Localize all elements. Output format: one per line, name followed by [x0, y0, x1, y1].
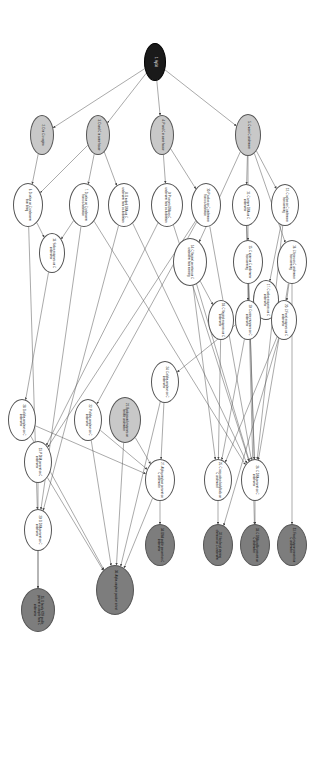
graph-node-6[interactable]: 6. D saliva on C underwear from biting — [13, 183, 43, 227]
graph-node-label: 23. P DNA present on C underwear — [35, 444, 41, 480]
graph-node-label: 14. C Vaginal secretion on C underwear f… — [187, 241, 193, 283]
graph-node-9[interactable]: 9. P semen DNA on C underwear from co-ha… — [151, 183, 183, 227]
graph-node-label: 28. D alpha-amylase on C underwear — [19, 402, 25, 438]
graph-edge — [108, 73, 147, 122]
graph-node-8[interactable]: 8. D naked DNA on C underwear from co-ha… — [108, 183, 140, 227]
graph-edge — [135, 438, 150, 464]
graph-node-label: 8. D naked DNA on C underwear from co-ha… — [121, 186, 127, 224]
graph-node-34[interactable]: 34. DNA profile present on C underwear — [145, 524, 175, 566]
graph-edge — [200, 281, 213, 304]
graph-node-label: 6. D saliva on C underwear from biting — [25, 186, 31, 224]
graph-edge — [104, 152, 116, 185]
graph-node-5[interactable]: 5. C worn C underwear — [235, 114, 261, 156]
graph-node-35[interactable]: 35. D family STR profile present in samp… — [21, 588, 55, 632]
graph-node-label: 5. C worn C underwear — [246, 117, 249, 153]
graph-node-label: 20. C Fecal enzymes on C underwear — [281, 303, 287, 337]
graph-node-12[interactable]: 12. C saliva on C underwear from wearing — [271, 184, 299, 226]
graph-edge — [256, 151, 276, 189]
graph-edge — [47, 478, 103, 571]
graph-node-3[interactable]: 3. D and C in same house — [86, 115, 110, 155]
graph-node-25[interactable]: 25. C non-saliva bodyfluids on C underwe… — [204, 459, 232, 501]
graph-node-label: 1. Hg/3d — [153, 46, 156, 78]
diagram-stage: 1. Hg/3d2. D in C's vagina3. D and C in … — [0, 0, 310, 784]
graph-node-label: 33. C DNA profile present on C underwear — [252, 527, 258, 563]
graph-edge — [32, 154, 38, 184]
graph-node-7[interactable]: 7. D saliva on C underwear from co-habit… — [69, 183, 99, 227]
graph-node-label: 32. Non-fecal staining chemical on C und… — [215, 527, 221, 563]
graph-node-label: 30. Alpha-amylase positive in test — [113, 568, 116, 612]
graph-node-label: 3. D and C in same house — [96, 118, 99, 152]
graph-node-label: 19. C urine enzymes on C underwear — [245, 303, 251, 337]
graph-node-label: 16. C feces on C underwear from wearing — [289, 243, 295, 281]
graph-node-label: 12. C saliva on C underwear from wearing — [282, 187, 288, 223]
graph-edge — [163, 155, 165, 183]
graph-node-32[interactable]: 32. Non-fecal staining chemical on C und… — [203, 524, 233, 566]
graph-edge — [26, 272, 49, 399]
graph-node-label: 4. P and C in same house — [160, 118, 163, 152]
graph-node-14[interactable]: 14. C Vaginal secretion on C underwear f… — [173, 238, 207, 286]
graph-node-29[interactable]: 29. D DNA present on C underwear — [24, 509, 52, 551]
graph-node-18[interactable]: 18. C Vaginal enzymes on C underwear — [208, 300, 234, 340]
graph-node-label: 13. Saliva enzymes on C underwear — [49, 236, 55, 270]
graph-node-label: 15. C urine on C underwear from wearing — [245, 243, 251, 281]
graph-edge — [61, 221, 73, 239]
graph-node-31[interactable]: 31. Fecal enzyme present on C underwear — [277, 524, 307, 566]
graph-node-label: 35. D family STR profile present in samp… — [33, 591, 43, 629]
graph-node-23[interactable]: 23. P DNA present on C underwear — [24, 441, 52, 483]
graph-node-label: 10. P saliva on C underwear from co-habi… — [203, 186, 209, 224]
graph-edge — [171, 149, 196, 189]
graph-node-label: 26. C DNA present on C underwear — [252, 462, 258, 498]
graph-node-2[interactable]: 2. D in C's vagina — [30, 115, 54, 155]
graph-node-label: 9. P semen DNA on C underwear from co-ha… — [164, 186, 170, 224]
graph-node-28[interactable]: 28. D alpha-amylase on C underwear — [8, 399, 36, 441]
graph-node-10[interactable]: 10. P saliva on C underwear from co-habi… — [191, 183, 221, 227]
graph-node-15[interactable]: 15. C urine on C underwear from wearing — [233, 240, 263, 284]
graph-node-19[interactable]: 19. C urine enzymes on C underwear — [235, 300, 261, 340]
graph-node-label: 18. C Vaginal enzymes on C underwear — [218, 303, 224, 337]
graph-node-label: 34. DNA profile present on C underwear — [157, 527, 163, 563]
graph-node-label: 11. C semen DNA on C underwear — [243, 187, 249, 223]
graph-node-label: 22. P alpha-amylase on C underwear — [85, 402, 91, 438]
graph-node-13[interactable]: 13. Saliva enzymes on C underwear — [39, 233, 65, 273]
graph-node-30[interactable]: 30. Alpha-amylase positive in test — [96, 565, 134, 615]
graph-edge — [116, 443, 123, 565]
graph-node-27[interactable]: 27. Alpha-amylase present on C underwear — [145, 459, 175, 501]
graph-node-label: 21. Background enzymes on female underwe… — [122, 400, 128, 440]
graph-node-26[interactable]: 26. C DNA present on C underwear — [241, 459, 269, 501]
graph-node-16[interactable]: 16. C feces on C underwear from wearing — [277, 240, 307, 284]
graph-node-label: 25. C non-saliva bodyfluids on C underwe… — [215, 462, 221, 498]
graph-edge — [91, 440, 111, 565]
graph-node-11[interactable]: 11. C semen DNA on C underwear — [232, 184, 260, 226]
graph-edge — [157, 81, 160, 116]
diagram-canvas: 1. Hg/3d2. D in C's vagina3. D and C in … — [0, 0, 310, 784]
graph-edge — [161, 403, 164, 459]
graph-node-22[interactable]: 22. P alpha-amylase on C underwear — [74, 399, 102, 441]
graph-node-label: 27. Alpha-amylase present on C underwear — [157, 462, 163, 498]
graph-node-label: 29. D DNA present on C underwear — [35, 512, 41, 548]
graph-node-label: 17. C saliva enzymes on C underwear — [263, 283, 269, 317]
graph-edge — [37, 223, 44, 237]
graph-node-4[interactable]: 4. P and C in same house — [150, 115, 174, 155]
graph-edge — [247, 156, 248, 184]
graph-edge — [165, 70, 236, 126]
graph-node-label: 7. D saliva on C underwear from co-habit… — [81, 186, 87, 224]
graph-edge — [88, 154, 94, 184]
graph-node-label: 24. C alpha-amylase on C underwear — [162, 364, 168, 400]
graph-node-33[interactable]: 33. C DNA profile present on C underwear — [240, 524, 270, 566]
graph-node-label: 2. D in C's vagina — [40, 118, 43, 152]
graph-node-20[interactable]: 20. C Fecal enzymes on C underwear — [271, 300, 297, 340]
graph-node-24[interactable]: 24. C alpha-amylase on C underwear — [151, 361, 179, 403]
graph-node-label: 31. Fecal enzyme present on C underwear — [289, 527, 295, 563]
graph-node-21[interactable]: 21. Background enzymes on female underwe… — [109, 397, 141, 443]
graph-node-1[interactable]: 1. Hg/3d — [144, 43, 166, 81]
